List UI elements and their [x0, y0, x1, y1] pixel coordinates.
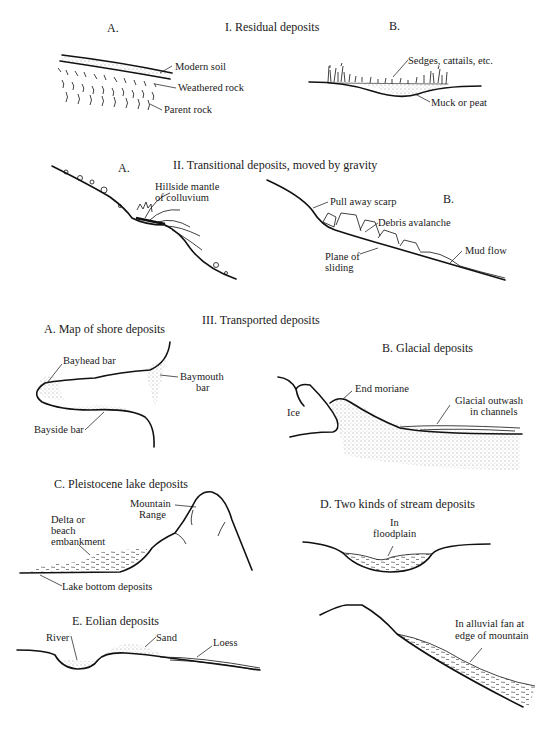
- label-range: Range: [139, 509, 166, 520]
- label-sand: Sand: [156, 632, 178, 643]
- sedge-plants: [328, 63, 447, 84]
- lake-title: C. Pleistocene lake deposits: [54, 477, 188, 491]
- transitional-a-letter: A.: [118, 161, 130, 175]
- label-in: In: [390, 517, 399, 528]
- transported-c-lake-diagram: C. Pleistocene lake deposits Mountain Ra…: [20, 477, 252, 592]
- label-river: River: [46, 632, 70, 643]
- residual-a-diagram: A. Modern soil Weathered rock Parent roc…: [58, 21, 245, 115]
- label-debris-avalanche: Debris avalanche: [378, 217, 451, 228]
- transported-a-shore-diagram: A. Map of shore deposits Bayhead bar Bay…: [34, 322, 224, 447]
- label-delta-or: Delta or: [51, 514, 86, 525]
- label-sedges: Sedges, cattails, etc.: [408, 55, 493, 66]
- section-title-transitional: II. Transitional deposits, moved by grav…: [173, 158, 377, 172]
- transported-d-stream-diagram: D. Two kinds of stream deposits In flood…: [303, 497, 535, 707]
- label-glacial-outwash: Glacial outwash: [455, 395, 524, 406]
- label-modern-soil: Modern soil: [175, 61, 226, 72]
- label-bayhead-bar: Bayhead bar: [63, 355, 116, 366]
- geologic-deposits-figure: I. Residual deposits A. Modern soil Weat…: [0, 0, 560, 753]
- residual-a-letter: A.: [107, 21, 119, 35]
- label-baymouth-bar: bar: [196, 382, 210, 393]
- glacial-title: B. Glacial deposits: [382, 341, 473, 355]
- section-transported: III. Transported deposits A. Map of shor…: [17, 313, 535, 707]
- label-beach: beach: [51, 525, 76, 536]
- eolian-title: E. Eolian deposits: [72, 614, 159, 628]
- label-floodplain: floodplain: [373, 528, 417, 539]
- label-edge-of-mountain: edge of mountain: [455, 630, 529, 641]
- label-baymouth: Baymouth: [180, 371, 224, 382]
- label-lake-bottom: Lake bottom deposits: [62, 581, 152, 592]
- label-in-channels: in channels: [470, 406, 518, 417]
- label-mud-flow: Mud flow: [465, 245, 507, 256]
- residual-b-diagram: B. Sedges, cattails, etc. Muck or peat: [309, 19, 493, 108]
- section-transitional: II. Transitional deposits, moved by grav…: [52, 158, 507, 280]
- label-sliding: sliding: [325, 262, 354, 273]
- label-ice: Ice: [287, 407, 300, 418]
- label-end-moriane: End moriane: [355, 383, 409, 394]
- label-of-colluvium: of colluvium: [155, 192, 209, 203]
- label-mountain: Mountain: [130, 498, 172, 509]
- shore-title: A. Map of shore deposits: [44, 322, 165, 336]
- label-weathered-rock: Weathered rock: [178, 82, 245, 93]
- label-plane-of: Plane of: [325, 251, 360, 262]
- section-title-residual: I. Residual deposits: [225, 20, 320, 34]
- label-pull-away-scarp: Pull away scarp: [330, 196, 396, 207]
- label-hillside-mantle: Hillside mantle: [155, 181, 220, 192]
- label-bayside-bar: Bayside bar: [34, 424, 84, 435]
- transported-e-eolian-diagram: E. Eolian deposits River Sand Loess: [17, 614, 260, 670]
- label-parent-rock: Parent rock: [164, 104, 213, 115]
- section-residual: I. Residual deposits A. Modern soil Weat…: [58, 19, 493, 115]
- transported-b-glacial-diagram: B. Glacial deposits Ice End moriane Glac…: [278, 341, 524, 470]
- label-alluvial-fan: In alluvial fan at: [455, 618, 524, 629]
- transitional-b-diagram: B. Pull away scarp Debris avalanche Plan…: [267, 180, 507, 280]
- residual-b-letter: B.: [389, 19, 400, 33]
- stream-title: D. Two kinds of stream deposits: [320, 497, 475, 511]
- section-title-transported: III. Transported deposits: [202, 313, 320, 327]
- label-loess: Loess: [213, 637, 238, 648]
- transitional-a-diagram: A. Hillside mantle of colluvium: [52, 161, 236, 279]
- transitional-b-letter: B.: [443, 192, 454, 206]
- label-muck-peat: Muck or peat: [431, 97, 487, 108]
- label-embankment: embankment: [51, 536, 105, 547]
